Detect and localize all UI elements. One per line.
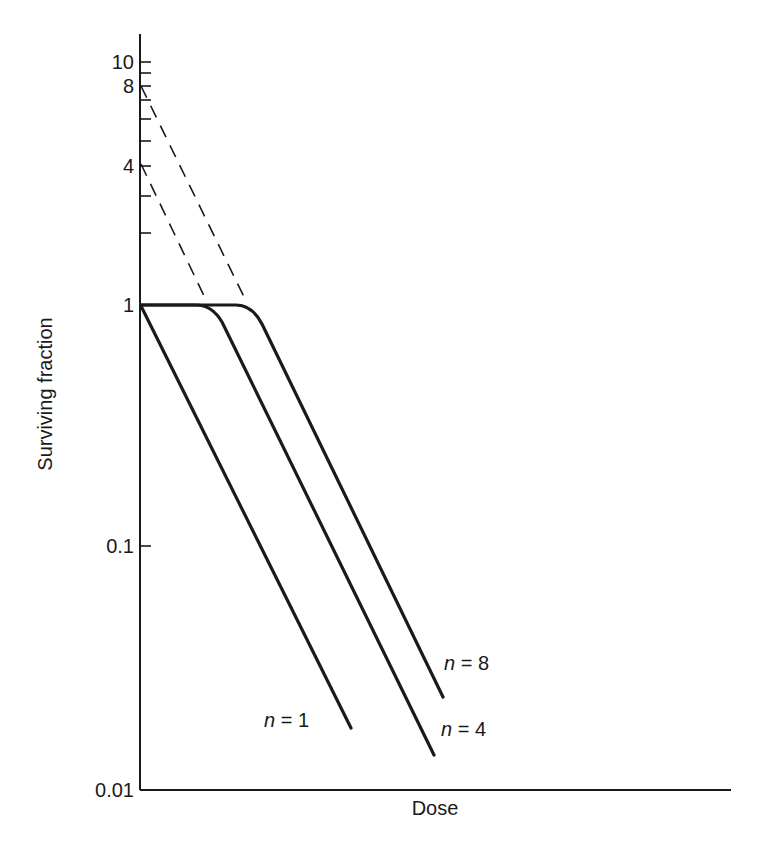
- curve-n8: [141, 305, 443, 697]
- curve-label-n8-eq: =: [455, 652, 478, 674]
- curve-label-n1-var: n: [264, 709, 275, 731]
- curve-label-n4-value: 4: [475, 718, 486, 740]
- extrapolation-n8: [141, 86, 246, 301]
- y-label-10: 10: [112, 51, 134, 73]
- curve-label-n8-value: 8: [478, 652, 489, 674]
- curve-label-n8-var: n: [444, 652, 455, 674]
- extrapolation-lines: [141, 86, 246, 301]
- y-label-0.01: 0.01: [95, 779, 134, 801]
- extrapolation-n4: [141, 164, 206, 300]
- survival-curve-chart: 10 8 4 1 0.1 0.01 Surviving fraction Dos…: [0, 0, 764, 846]
- x-axis-title: Dose: [412, 797, 459, 819]
- y-axis-title: Surviving fraction: [34, 317, 56, 470]
- y-label-4: 4: [123, 155, 134, 177]
- curve-label-n1: n = 1: [264, 709, 309, 731]
- y-label-1: 1: [123, 294, 134, 316]
- axes: [140, 34, 731, 790]
- y-tick-labels: 10 8 4 1 0.1 0.01: [95, 51, 134, 801]
- survival-curves: [141, 305, 443, 755]
- y-label-8: 8: [123, 75, 134, 97]
- curve-label-n4-var: n: [441, 718, 452, 740]
- y-label-0.1: 0.1: [106, 535, 134, 557]
- curve-label-n4: n = 4: [441, 718, 486, 740]
- curve-label-n1-value: 1: [298, 709, 309, 731]
- curve-label-n4-eq: =: [452, 718, 475, 740]
- curve-n4: [141, 305, 434, 755]
- curve-label-n1-eq: =: [275, 709, 298, 731]
- curve-label-n8: n = 8: [444, 652, 489, 674]
